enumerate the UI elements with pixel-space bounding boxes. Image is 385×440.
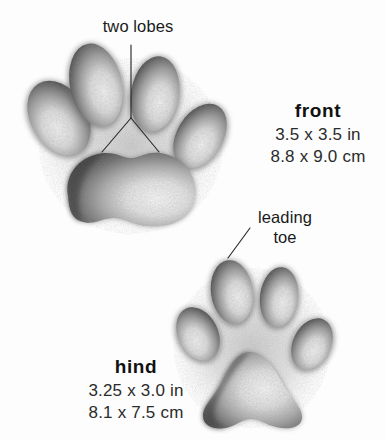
hind-track-size-centimeters: 8.1 x 7.5 cm xyxy=(62,402,210,424)
front-track-size-inches: 3.5 x 3.5 in xyxy=(252,124,384,146)
track-illustration-page: two lobes leading toe front 3.5 x 3.5 in… xyxy=(0,0,385,440)
hind-track-name: hind xyxy=(62,355,210,380)
hind-track-label-block: hind 3.25 x 3.0 in 8.1 x 7.5 cm xyxy=(62,355,210,424)
callout-leading-toe: leading toe xyxy=(238,207,332,247)
front-track-size-centimeters: 8.8 x 9.0 cm xyxy=(252,146,384,168)
callout-two-lobes-text: two lobes xyxy=(103,17,174,35)
callout-two-lobes: two lobes xyxy=(76,16,200,36)
front-track-label-block: front 3.5 x 3.5 in 8.8 x 9.0 cm xyxy=(252,99,384,168)
callout-leading-toe-line2: toe xyxy=(238,227,332,247)
front-track-name: front xyxy=(252,99,384,124)
front-track xyxy=(12,37,241,238)
hind-track-size-inches: 3.25 x 3.0 in xyxy=(62,380,210,402)
front-heel-pad xyxy=(67,153,195,227)
callout-leading-toe-line1: leading xyxy=(238,207,332,227)
